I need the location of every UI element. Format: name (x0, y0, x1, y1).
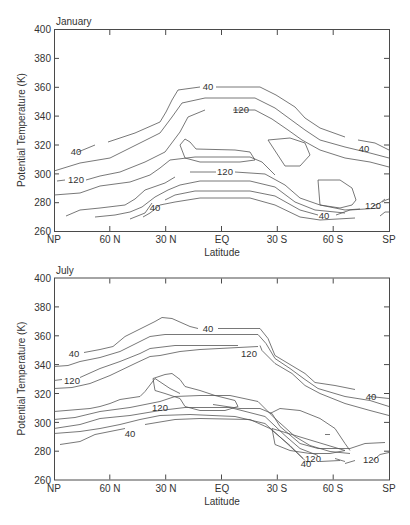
y-tick-label: 380 (34, 53, 51, 64)
july-panel: July 400 380 360 340 320 300 280 260 Pot… (16, 265, 396, 507)
x-tick-label: 60 S (323, 483, 344, 494)
contour-label: 120 (365, 200, 381, 211)
y-tick-label: 300 (34, 169, 51, 180)
contour-labels: 40 120 40 120 120 40 40 120 40 (68, 81, 381, 221)
x-tick-label: 30 S (267, 483, 288, 494)
y-tick-label: 360 (34, 82, 51, 93)
contour-label: 40 (71, 146, 82, 157)
y-tick-label: 320 (34, 389, 51, 400)
contour-label: 40 (150, 202, 161, 213)
x-tick-label: 60 N (99, 234, 120, 245)
x-tick-label: EQ (215, 483, 230, 494)
x-tick-label: NP (47, 234, 61, 245)
x-tick-label: 30 S (267, 234, 288, 245)
contour-lines (54, 87, 389, 220)
y-tick-label: 300 (34, 418, 51, 429)
contour-label: 40 (203, 81, 214, 92)
panel-title: July (56, 265, 74, 276)
x-axis-label: Latitude (204, 496, 240, 507)
y-tick-label: 380 (34, 302, 51, 313)
contour-label: 40 (203, 323, 214, 334)
plot-frame (55, 30, 390, 232)
contour-label: 40 (319, 210, 330, 221)
y-tick-label: 280 (34, 197, 51, 208)
contour-label: 120 (68, 174, 84, 185)
contour-label: 40 (69, 348, 80, 359)
x-axis-label: Latitude (204, 247, 240, 258)
x-axis: NP 60 N 30 N EQ 30 S 60 S SP Latitude (47, 30, 396, 258)
contour-label: 40 (301, 458, 312, 469)
y-tick-label: 340 (34, 111, 51, 122)
x-tick-label: 30 N (155, 483, 176, 494)
contour-label: 120 (64, 375, 80, 386)
x-tick-label: EQ (215, 234, 230, 245)
x-tick-label: 60 N (99, 483, 120, 494)
x-tick-label: SP (382, 234, 396, 245)
x-tick-label: 60 S (323, 234, 344, 245)
panel-title: January (56, 16, 92, 27)
x-tick-label: NP (47, 483, 61, 494)
contour-label: 40 (359, 143, 370, 154)
chart-figure: January 400 380 360 340 320 300 280 260 … (0, 0, 410, 525)
contour-label: 120 (241, 348, 257, 359)
y-axis-label: Potential Temperature (K) (16, 73, 27, 187)
y-axis-label: Potential Temperature (K) (16, 322, 27, 436)
contour-label: 120 (363, 454, 379, 465)
contour-label: 120 (233, 104, 249, 115)
x-tick-label: SP (382, 483, 396, 494)
y-tick-label: 280 (34, 446, 51, 457)
january-panel: January 400 380 360 340 320 300 280 260 … (16, 16, 396, 258)
contour-lines (54, 318, 389, 464)
contour-label: 40 (125, 428, 136, 439)
contour-label: 120 (217, 166, 233, 177)
y-tick-label: 400 (34, 24, 51, 35)
y-tick-label: 320 (34, 140, 51, 151)
y-tick-label: 400 (34, 273, 51, 284)
y-tick-label: 360 (34, 331, 51, 342)
contour-label: 120 (152, 402, 168, 413)
contour-label: 40 (366, 391, 377, 402)
x-axis: NP 60 N 30 N EQ 30 S 60 S SP Latitude (47, 279, 396, 507)
y-axis: 400 380 360 340 320 300 280 260 Potentia… (16, 24, 389, 237)
y-tick-label: 340 (34, 360, 51, 371)
x-tick-label: 30 N (155, 234, 176, 245)
plot-frame (55, 278, 390, 480)
